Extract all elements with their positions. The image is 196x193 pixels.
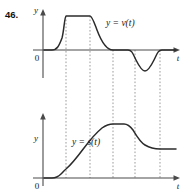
problem-number: 46.	[5, 9, 18, 20]
bottom-t-axis-label: t	[177, 181, 180, 191]
calculus-figure-46: y t 0 y = v(t) y t 0 y = s(t) 46.	[0, 0, 196, 193]
bottom-origin-label: 0	[35, 181, 40, 191]
figure-container: y t 0 y = v(t) y t 0 y = s(t) 46.	[0, 0, 196, 193]
velocity-curve-label: y = v(t)	[105, 18, 135, 29]
top-origin-label: 0	[35, 53, 40, 63]
top-y-axis-arrowhead	[40, 9, 46, 16]
bottom-y-axis-label: y	[33, 133, 38, 143]
top-t-axis-label: t	[177, 53, 180, 63]
bottom-y-axis-arrowhead	[40, 113, 46, 120]
position-curve-label: y = s(t)	[71, 137, 100, 148]
bottom-plot: y t 0 y = s(t)	[33, 113, 180, 191]
position-curve	[44, 124, 176, 178]
bottom-t-axis-arrowhead	[174, 175, 181, 181]
top-plot: y t 0 y = v(t)	[33, 5, 180, 78]
top-y-axis-label: y	[33, 5, 38, 15]
